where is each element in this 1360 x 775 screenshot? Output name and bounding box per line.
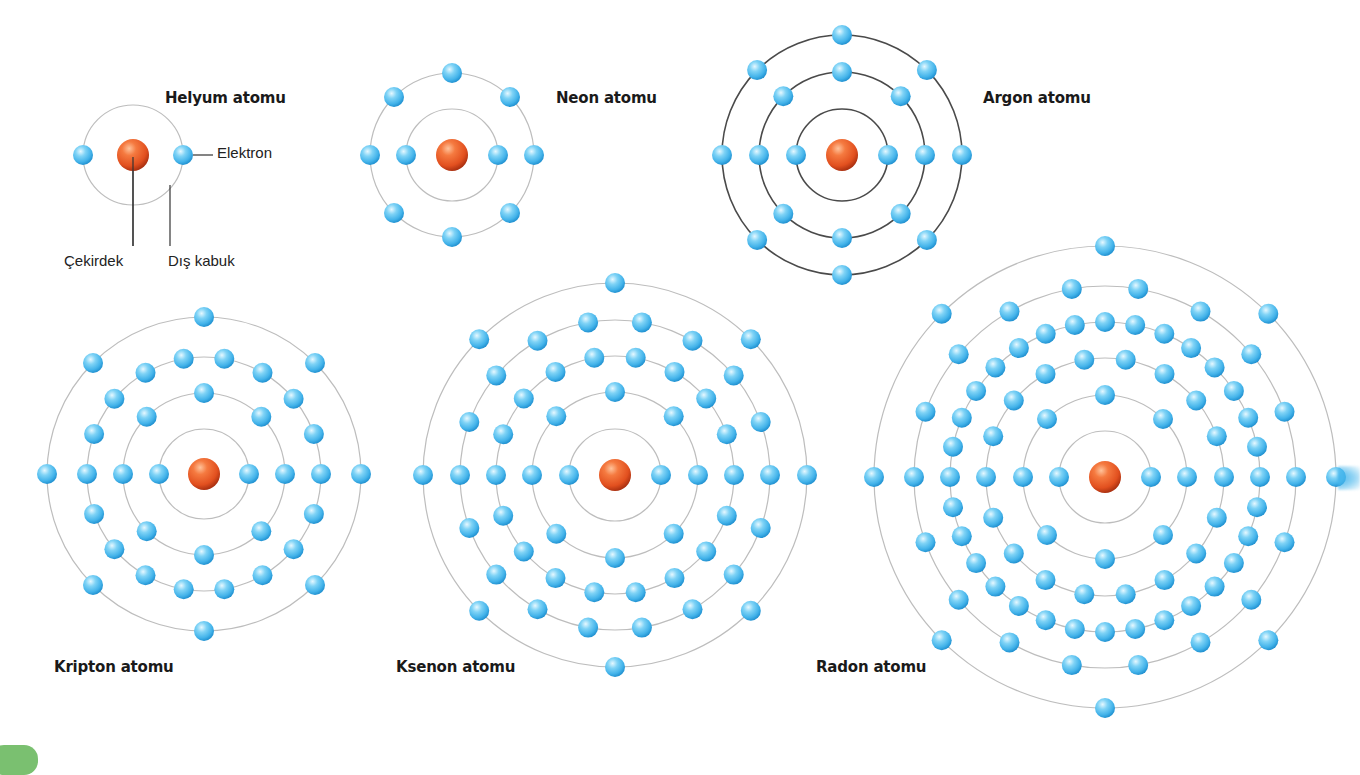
electron [952, 145, 972, 165]
electron [1009, 596, 1029, 616]
electron [983, 426, 1003, 446]
electron [724, 465, 744, 485]
electron [632, 312, 652, 332]
electron [1000, 632, 1020, 652]
electron [514, 389, 534, 409]
nucleus-neon [436, 139, 468, 171]
electron [1286, 467, 1306, 487]
electron [413, 465, 433, 485]
electron [1036, 364, 1056, 384]
electron [284, 389, 304, 409]
electron [1153, 409, 1173, 429]
electron [976, 467, 996, 487]
electron [84, 424, 104, 444]
electron [136, 565, 156, 585]
electron [878, 145, 898, 165]
electron [1095, 312, 1115, 332]
electron [493, 424, 513, 444]
atom-radon [864, 236, 1346, 718]
electron [917, 230, 937, 250]
electron [1095, 385, 1115, 405]
electron [1036, 324, 1056, 344]
electron [891, 204, 911, 224]
electron [253, 363, 273, 383]
electron [605, 273, 625, 293]
electron [751, 518, 771, 538]
electron [1141, 467, 1161, 487]
electron [891, 86, 911, 106]
electron [304, 424, 324, 444]
electron [940, 467, 960, 487]
electron [949, 590, 969, 610]
electron [251, 407, 271, 427]
electron [1095, 236, 1115, 256]
electron [1125, 619, 1145, 639]
nucleus-xenon [599, 459, 631, 491]
electron [1250, 467, 1270, 487]
nucleus-radon [1089, 461, 1121, 493]
electron [1004, 391, 1024, 411]
electron [696, 542, 716, 562]
electron [1074, 350, 1094, 370]
electron [1186, 391, 1206, 411]
electron [194, 307, 214, 327]
electron [459, 412, 479, 432]
electron [1258, 304, 1278, 324]
electron [1065, 315, 1085, 335]
electron [1125, 315, 1145, 335]
electron [1275, 532, 1295, 552]
electron [1191, 302, 1211, 322]
electron [104, 389, 124, 409]
atom-neon [360, 63, 544, 247]
electron [717, 424, 737, 444]
cropped-electron-edge [1338, 466, 1360, 490]
electron [747, 230, 767, 250]
electron [1181, 338, 1201, 358]
electron [1128, 279, 1148, 299]
electron [1009, 338, 1029, 358]
electron [514, 542, 534, 562]
electron [522, 465, 542, 485]
electron [1155, 364, 1175, 384]
electron [1116, 350, 1136, 370]
electron [712, 145, 732, 165]
electron [304, 504, 324, 524]
electron [1214, 467, 1234, 487]
electron [1238, 408, 1258, 428]
electron [717, 506, 737, 526]
electron [546, 362, 566, 382]
electron [786, 145, 806, 165]
electron [605, 548, 625, 568]
electron [1154, 324, 1174, 344]
electron [486, 565, 506, 585]
electron [932, 304, 952, 324]
electron [305, 353, 325, 373]
electron [751, 412, 771, 432]
electron [741, 601, 761, 621]
electron [966, 381, 986, 401]
electron [77, 464, 97, 484]
electron [983, 508, 1003, 528]
electron [1128, 655, 1148, 675]
electron [688, 465, 708, 485]
electron [741, 329, 761, 349]
electron [724, 565, 744, 585]
electron [284, 539, 304, 559]
electron [528, 331, 548, 351]
electron [1095, 549, 1115, 569]
electron [137, 521, 157, 541]
electron [797, 465, 817, 485]
electron [949, 344, 969, 364]
electron [952, 526, 972, 546]
electron [149, 464, 169, 484]
electron [832, 265, 852, 285]
electron [1154, 610, 1174, 630]
electron [915, 145, 935, 165]
electron [832, 25, 852, 45]
electron [1049, 467, 1069, 487]
electron [351, 464, 371, 484]
electron [500, 203, 520, 223]
electron [917, 60, 937, 80]
electron [384, 87, 404, 107]
electron [952, 408, 972, 428]
